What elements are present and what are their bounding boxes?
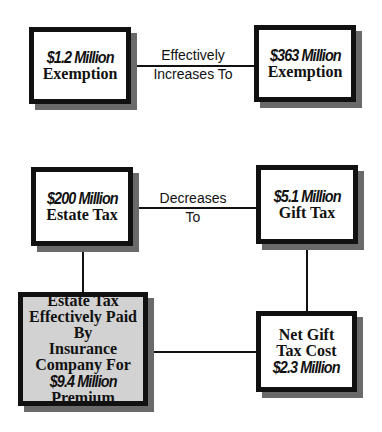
connector-label-line: Decreases xyxy=(138,189,248,208)
amount: $200 Million xyxy=(47,190,118,207)
amount: $9.4 Million xyxy=(50,373,117,390)
connector-label-top: Effectively Increases To xyxy=(138,46,248,84)
line: Tax Cost xyxy=(276,343,336,359)
line: Effectively Paid By xyxy=(23,309,143,341)
connector-label-middle: Decreases To xyxy=(138,189,248,227)
line: Net Gift xyxy=(279,327,335,343)
connector-label-line: Increases To xyxy=(138,65,248,84)
line: Premium xyxy=(51,390,115,406)
box-insurance-payment: Estate Tax Effectively Paid By Insurance… xyxy=(18,292,148,406)
line: Insurance xyxy=(49,341,117,357)
box-current-exemption: $1.2 Million Exemption xyxy=(29,27,131,104)
connector-label-line: Effectively xyxy=(138,46,248,65)
box-net-gift-tax-cost: Net Gift Tax Cost $2.3 Million xyxy=(256,311,357,392)
amount: $1.2 Million xyxy=(47,49,114,66)
box-estate-tax: $200 Million Estate Tax xyxy=(31,167,133,246)
amount: $2.3 Million xyxy=(273,359,340,376)
box-effective-exemption: $363 Million Exemption xyxy=(254,25,356,102)
amount: $363 Million xyxy=(270,47,341,64)
line: Company For xyxy=(35,357,131,373)
box-gift-tax: $5.1 Million Gift Tax xyxy=(256,165,358,244)
amount: $5.1 Million xyxy=(274,188,341,205)
label: Estate Tax xyxy=(46,207,118,223)
connector-label-line: To xyxy=(138,208,248,227)
line: Estate Tax xyxy=(47,293,119,309)
connector-right-vertical xyxy=(306,244,308,311)
connector-left-vertical xyxy=(82,246,84,292)
label: Exemption xyxy=(268,64,343,80)
label: Exemption xyxy=(43,66,118,82)
label: Gift Tax xyxy=(279,205,335,221)
connector-bottom xyxy=(148,351,256,353)
